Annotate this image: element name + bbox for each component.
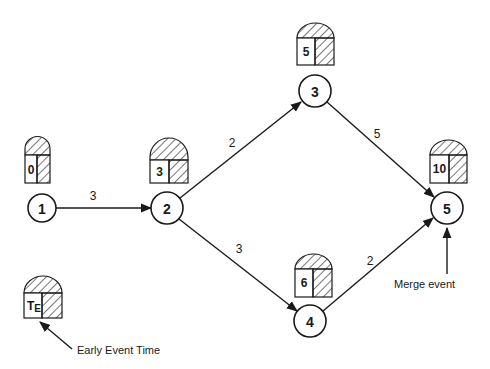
edge-2-3 [180,102,301,198]
pert-diagram: 3 2 3 5 2 0 3 5 6 10 [0,0,490,369]
legend-pointer-arrow [40,322,72,349]
event-node-1: 1 [28,194,56,222]
early-time-box-node-3: 5 [297,23,334,65]
early-time-box-node-4: 6 [295,254,332,297]
edge-3-5 [327,102,434,197]
node-label: 3 [311,84,319,100]
node-label: 5 [443,201,451,217]
edge-label-2-3: 2 [229,136,236,150]
early-time-box-node-2: 3 [150,138,188,183]
edge-label-1-2: 3 [90,189,97,203]
legend-early-event-time: TE Early Event Time [24,276,160,356]
event-node-2: 2 [151,192,183,224]
early-time-value: 5 [303,45,310,59]
early-time-value: 10 [433,162,447,176]
early-time-box-node-5: 10 [430,140,467,183]
event-node-3: 3 [299,75,331,107]
edge-4-5 [323,218,433,311]
node-label: 2 [163,201,171,217]
edge-label-2-4: 3 [236,242,243,256]
merge-event-label: Merge event [394,278,455,290]
legend-description: Early Event Time [77,344,160,356]
early-time-value: 6 [301,276,308,290]
early-time-value: 0 [28,163,35,177]
early-time-box-node-1: 0 [25,137,50,184]
early-time-value: 3 [156,165,163,179]
edge-labels: 3 2 3 5 2 [90,127,381,268]
edge-2-4 [179,219,297,311]
nodes: 1 2 3 4 5 [28,75,463,337]
node-label: 4 [306,314,314,330]
event-node-4: 4 [294,305,326,337]
edge-label-4-5: 2 [367,254,374,268]
edge-label-3-5: 5 [374,127,381,141]
merge-event-annotation: Merge event [394,228,455,290]
node-label: 1 [38,201,46,217]
event-node-5: 5 [431,192,463,224]
